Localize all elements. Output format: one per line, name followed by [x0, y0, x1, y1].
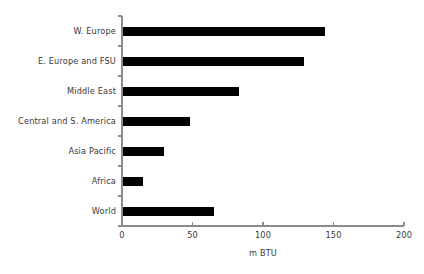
category-label: Asia Pacific: [68, 146, 116, 156]
bar-asia-pacific: [122, 147, 164, 156]
bar-e-europe-and-fsu: [122, 57, 304, 66]
x-axis-title: m BTU: [249, 248, 277, 258]
category-label: Africa: [92, 176, 116, 186]
x-axis: [122, 222, 404, 226]
bar-chart-figure: W. EuropeE. Europe and FSUMiddle EastCen…: [0, 0, 424, 274]
bar-africa: [122, 177, 143, 186]
bars-group: [122, 27, 325, 216]
chart-canvas: W. EuropeE. Europe and FSUMiddle EastCen…: [0, 0, 424, 274]
x-tick-label: 0: [119, 230, 124, 240]
category-label: World: [92, 206, 116, 216]
category-labels-group: W. EuropeE. Europe and FSUMiddle EastCen…: [18, 26, 117, 216]
y-axis: [118, 16, 122, 226]
category-label: Central and S. America: [18, 116, 116, 126]
x-tick-label: 100: [255, 230, 271, 240]
bar-middle-east: [122, 87, 239, 96]
category-label: Middle East: [67, 86, 117, 96]
bar-central-and-s-america: [122, 117, 190, 126]
x-tick-label: 150: [325, 230, 341, 240]
x-tick-label: 50: [187, 230, 198, 240]
x-tick-label: 200: [396, 230, 412, 240]
category-label: E. Europe and FSU: [38, 56, 116, 66]
bar-world: [122, 207, 214, 216]
bar-w-europe: [122, 27, 325, 36]
category-label: W. Europe: [73, 26, 116, 36]
x-tick-labels-group: 050100150200: [119, 230, 412, 240]
